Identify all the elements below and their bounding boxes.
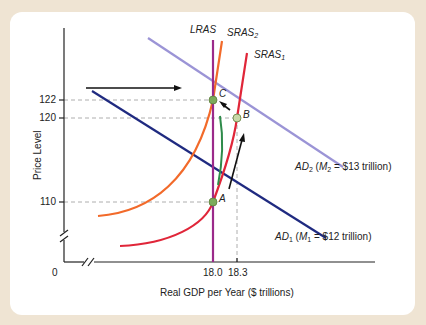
arrowhead-icon xyxy=(174,85,182,91)
adjustment-path xyxy=(218,116,222,185)
ad2-label: AD2 (M2 = $13 trillion) xyxy=(295,162,391,173)
point-b-label: B xyxy=(243,110,250,120)
x-axis-label: Real GDP per Year ($ trillions) xyxy=(160,287,294,298)
x-tick-18-0: 18.0 xyxy=(203,268,222,278)
origin-label: 0 xyxy=(52,268,58,278)
point-c xyxy=(209,96,217,104)
lras-label: LRAS xyxy=(190,25,216,35)
point-a xyxy=(209,198,217,206)
point-b xyxy=(233,114,241,122)
x-tick-18-3: 18.3 xyxy=(228,268,247,278)
sras2-label: SRAS2 xyxy=(227,28,258,39)
y-tick-110: 110 xyxy=(26,197,56,207)
sras2-curve xyxy=(98,41,222,216)
y-tick-122: 122 xyxy=(26,95,56,105)
point-c-label: C xyxy=(219,89,226,99)
guide-lines xyxy=(64,100,237,262)
ad1-label: AD1 (M1 = $12 trillion) xyxy=(275,232,371,243)
arrowhead-icon xyxy=(239,133,245,142)
sras1-label: SRAS1 xyxy=(254,50,285,61)
y-tick-120: 120 xyxy=(26,113,56,123)
y-axis-label: Price Level xyxy=(32,131,43,180)
point-a-label: A xyxy=(219,194,226,204)
